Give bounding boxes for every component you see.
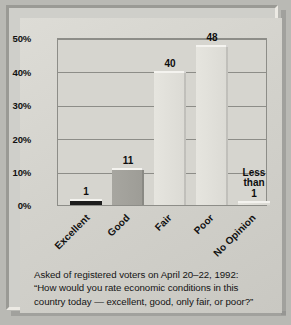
bar-value-good: 11 bbox=[112, 156, 144, 167]
x-axis-label-excellent: Excellent bbox=[39, 212, 92, 265]
bar-value-excellent: 1 bbox=[70, 187, 102, 198]
chart-panel: 50% 40% 30% 20% 10% 0% bbox=[20, 18, 282, 313]
y-axis-tick-20: 20% bbox=[0, 134, 31, 145]
y-axis-tick-50: 50% bbox=[0, 33, 31, 44]
bar-value-no-opinion-line2: than bbox=[243, 177, 264, 188]
x-axis-label-good: Good bbox=[89, 212, 132, 255]
bar-highlight-cap bbox=[70, 199, 102, 201]
bar-no-opinion[interactable] bbox=[238, 201, 270, 205]
caption-line-2: “How would you rate economic conditions … bbox=[34, 281, 272, 294]
bar-value-fair: 40 bbox=[154, 59, 186, 70]
bar-value-no-opinion: Less than 1 bbox=[234, 168, 274, 200]
bar-side-face bbox=[142, 168, 144, 205]
caption-line-3: country today — excellent, good, only fa… bbox=[34, 295, 272, 308]
bar-highlight-cap bbox=[238, 201, 270, 203]
bar-side-face bbox=[184, 71, 186, 205]
bar-highlight-cap bbox=[196, 45, 228, 47]
bar-value-no-opinion-line1: Less bbox=[243, 167, 266, 178]
chart-caption: Asked of registered voters on April 20–2… bbox=[34, 268, 272, 308]
bar-value-poor: 48 bbox=[196, 33, 228, 44]
chart-frame: 50% 40% 30% 20% 10% 0% bbox=[6, 5, 278, 310]
bar-fair[interactable] bbox=[154, 71, 186, 205]
y-axis-tick-0: 0% bbox=[0, 200, 31, 211]
gridline-50 bbox=[58, 39, 266, 40]
plot-area: 1 11 40 48 Less than 1 bbox=[57, 38, 267, 206]
bar-excellent[interactable] bbox=[70, 199, 102, 205]
bar-highlight-cap bbox=[154, 71, 186, 73]
y-axis-tick-10: 10% bbox=[0, 167, 31, 178]
bar-highlight-cap bbox=[112, 168, 144, 170]
y-axis-tick-30: 30% bbox=[0, 100, 31, 111]
bar-good[interactable] bbox=[112, 168, 144, 205]
bar-side-face bbox=[226, 45, 228, 205]
bar-poor[interactable] bbox=[196, 45, 228, 205]
bar-value-no-opinion-line3: 1 bbox=[251, 188, 257, 199]
y-axis-tick-40: 40% bbox=[0, 67, 31, 78]
caption-line-1: Asked of registered voters on April 20–2… bbox=[34, 268, 272, 281]
x-axis-label-poor: Poor bbox=[174, 212, 216, 254]
x-axis-label-fair: Fair bbox=[133, 212, 173, 252]
